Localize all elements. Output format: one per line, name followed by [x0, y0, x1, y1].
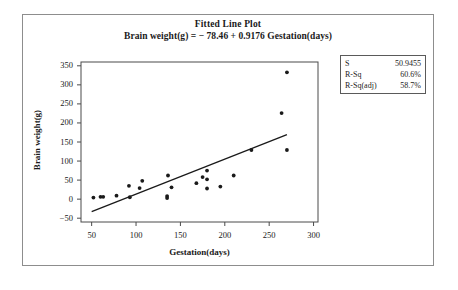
y-axis-ticks [77, 66, 81, 218]
scatter-point [140, 179, 144, 183]
scatter-point [170, 185, 174, 189]
scatter-point [201, 175, 205, 179]
y-tick-label: 350 [47, 60, 73, 70]
y-tick-label: 250 [47, 98, 73, 108]
scatter-point [205, 177, 209, 181]
fitted-line-plot-figure: Fitted Line Plot Brain weight(g) = − 78.… [0, 0, 458, 290]
stats-label: S [345, 58, 349, 69]
scatter-point [285, 148, 289, 152]
scatter-point [138, 186, 142, 190]
y-axis-title: Brain weight(g) [32, 80, 42, 200]
scatter-point [205, 187, 209, 191]
scatter-point [166, 174, 170, 178]
scatter-point [165, 196, 169, 200]
y-tick-label: −50 [47, 213, 73, 223]
x-tick-label: 250 [254, 230, 284, 240]
scatter-point [128, 195, 132, 199]
x-tick-label: 50 [77, 230, 107, 240]
y-tick-label: 300 [47, 79, 73, 89]
x-tick-label: 100 [121, 230, 151, 240]
scatter-point [194, 181, 198, 185]
stats-row: R-Sq 60.6% [341, 69, 425, 80]
stats-label: R-Sq(adj) [345, 80, 377, 91]
x-tick-label: 200 [210, 230, 240, 240]
y-tick-label: 150 [47, 137, 73, 147]
scatter-point [115, 194, 119, 198]
stats-row: R-Sq(adj) 58.7% [341, 80, 425, 91]
y-tick-label: 0 [47, 194, 73, 204]
stats-value: 60.6% [400, 69, 421, 80]
x-tick-label: 300 [299, 230, 329, 240]
scatter-point [127, 184, 131, 188]
x-axis-title: Gestation(days) [81, 247, 318, 257]
y-tick-label: 50 [47, 175, 73, 185]
scatter-point [92, 196, 96, 200]
scatter-point [285, 70, 289, 74]
scatter-point [280, 111, 284, 115]
stats-row: S 50.9455 [341, 58, 425, 69]
statistics-box: S 50.9455 R-Sq 60.6% R-Sq(adj) 58.7% [340, 55, 426, 94]
scatter-point [205, 169, 209, 173]
stats-label: R-Sq [345, 69, 361, 80]
stats-value: 58.7% [400, 80, 421, 91]
stats-value: 50.9455 [395, 58, 421, 69]
y-tick-label: 100 [47, 156, 73, 166]
scatter-point [232, 174, 236, 178]
plot-frame [81, 62, 318, 222]
y-tick-label: 200 [47, 117, 73, 127]
x-tick-label: 150 [165, 230, 195, 240]
scatter-point [101, 195, 105, 199]
x-axis-ticks [92, 222, 314, 226]
scatter-point [250, 148, 254, 152]
scatter-point [218, 185, 222, 189]
